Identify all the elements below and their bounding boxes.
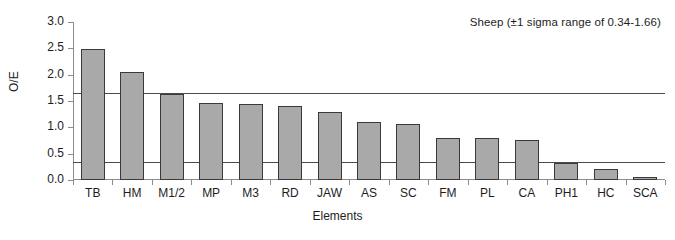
bar [278, 106, 302, 180]
bar [160, 94, 184, 180]
x-axis-tick [152, 180, 153, 185]
x-axis-tick [547, 180, 548, 185]
plot-area: 3.02.52.01.51.00.50.0 [73, 22, 665, 180]
x-axis-category-label: M1/2 [158, 186, 185, 200]
bar [594, 169, 618, 180]
x-axis-tick [73, 180, 74, 185]
y-axis-tick-label: 1.0 [47, 119, 64, 133]
chart-container: Sheep (±1 sigma range of 0.34-1.66) O/E … [0, 0, 675, 240]
x-axis-tick [626, 180, 627, 185]
bar [436, 138, 460, 180]
y-axis-tick-label: 2.0 [47, 67, 64, 81]
x-axis-category-label: AS [361, 186, 377, 200]
y-axis-tick-label: 1.5 [47, 93, 64, 107]
x-axis-tick [507, 180, 508, 185]
x-axis-category-label: HC [597, 186, 614, 200]
x-axis-category-label: SC [400, 186, 417, 200]
x-axis-category-label: PL [480, 186, 495, 200]
bar [318, 112, 342, 180]
bar [396, 124, 420, 180]
x-axis-category-labels: TBHMM1/2MPM3RDJAWASSCFMPLCAPH1HCSCA [73, 186, 665, 206]
x-axis-category-label: SCA [633, 186, 658, 200]
x-axis-tick [468, 180, 469, 185]
x-axis-tick [665, 180, 666, 185]
x-axis-tick [310, 180, 311, 185]
bar [120, 72, 144, 180]
bar-series [73, 22, 665, 180]
bar [357, 122, 381, 180]
bar [554, 163, 578, 180]
x-axis-tick [191, 180, 192, 185]
bar [81, 49, 105, 180]
x-axis-category-label: HM [123, 186, 142, 200]
x-axis-tick [389, 180, 390, 185]
x-axis-category-label: TB [85, 186, 100, 200]
bar [475, 138, 499, 180]
x-axis-category-label: MP [202, 186, 220, 200]
y-axis-tick-label: 2.5 [47, 40, 64, 54]
y-axis-tick-label: 3.0 [47, 14, 64, 28]
x-axis-category-label: CA [519, 186, 536, 200]
x-axis-category-label: JAW [317, 186, 342, 200]
x-axis-category-label: RD [281, 186, 298, 200]
y-axis-title: O/E [7, 71, 21, 92]
x-axis-tick [586, 180, 587, 185]
x-axis-title: Elements [0, 209, 675, 223]
x-axis-tick [112, 180, 113, 185]
y-axis-tick-label: 0.5 [47, 146, 64, 160]
bar [199, 103, 223, 180]
x-axis-tick [231, 180, 232, 185]
x-axis-category-label: PH1 [555, 186, 578, 200]
x-axis-tick [428, 180, 429, 185]
x-axis-tick [349, 180, 350, 185]
x-axis-category-label: M3 [242, 186, 259, 200]
x-axis-tick [270, 180, 271, 185]
x-axis-category-label: FM [439, 186, 456, 200]
y-axis-tick-label: 0.0 [47, 172, 64, 186]
bar [515, 140, 539, 180]
bar [239, 104, 263, 180]
bar [633, 177, 657, 180]
